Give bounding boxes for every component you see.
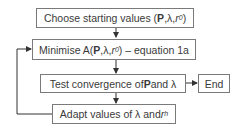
text: ) (183, 12, 187, 24)
text: Minimise A( (39, 44, 93, 56)
node-test-convergence: Test convergence of P and λ (40, 74, 186, 93)
text: Test convergence of (50, 78, 144, 90)
node-adapt-values: Adapt values of λ and rh (52, 104, 176, 124)
symbol-P: P (157, 12, 164, 24)
text: ,λ, (100, 44, 111, 56)
text: and λ (151, 78, 177, 90)
symbol-P: P (93, 44, 100, 56)
text: Adapt values of λ and (60, 108, 161, 120)
node-end: End (198, 74, 230, 93)
text: End (205, 78, 224, 90)
text: ) – equation 1a (119, 44, 189, 56)
node-choose-starting-values: Choose starting values (P,λ,r0) (36, 8, 194, 28)
symbol-P: P (144, 78, 151, 90)
node-minimise: Minimise A(P,λ,r0) – equation 1a (32, 39, 196, 60)
text: Choose starting values ( (44, 12, 157, 24)
text: ,λ, (164, 12, 175, 24)
